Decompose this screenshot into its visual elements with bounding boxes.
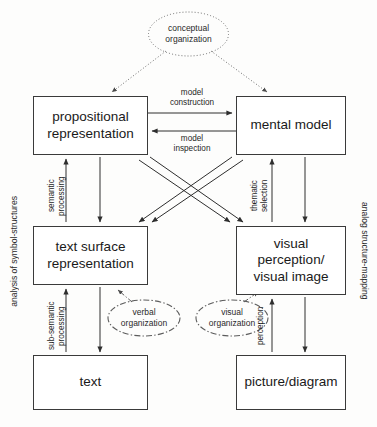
edge-label-model-construction: model construction bbox=[152, 88, 232, 109]
node-propositional-representation-label: propositional representation bbox=[47, 109, 133, 142]
node-text[interactable]: text bbox=[33, 355, 148, 410]
diagram-canvas: propositional representation mental mode… bbox=[0, 0, 377, 427]
verbal-organization-ellipse bbox=[108, 300, 180, 336]
side-label-analog-structure-mapping: analog structure-mapping bbox=[360, 202, 370, 299]
node-propositional-representation[interactable]: propositional representation bbox=[33, 96, 148, 155]
edge-label-thematic-selection: thematic selection bbox=[250, 168, 271, 224]
edge-propositional-to-visual-perception bbox=[150, 157, 243, 222]
node-visual-perception-visual-image-label: visual perception/ visual image bbox=[253, 236, 328, 285]
edge-verbal-organization-to-text-surface bbox=[118, 290, 132, 302]
node-text-label: text bbox=[80, 374, 102, 390]
edge-conceptual-to-mental-model bbox=[211, 51, 267, 92]
edge-conceptual-to-propositional bbox=[112, 51, 166, 92]
edge-label-semantic-processing: semantic processing bbox=[47, 168, 68, 224]
node-picture-diagram-label: picture/diagram bbox=[244, 374, 337, 390]
edge-label-model-inspection: model inspection bbox=[152, 134, 232, 155]
node-text-surface-representation-label: text surface representation bbox=[47, 239, 133, 272]
edge-label-sub-semantic-processing: sub-semantic processing bbox=[47, 298, 68, 354]
node-visual-perception-visual-image[interactable]: visual perception/ visual image bbox=[236, 226, 346, 295]
node-text-surface-representation[interactable]: text surface representation bbox=[33, 226, 148, 285]
edge-mental-model-to-text-surface bbox=[139, 157, 232, 222]
node-mental-model[interactable]: mental model bbox=[236, 96, 346, 155]
node-mental-model-label: mental model bbox=[250, 117, 331, 133]
side-label-analysis-of-symbol-structures: analysis of symbol-structures bbox=[9, 196, 19, 307]
conceptual-organization-ellipse bbox=[149, 12, 229, 56]
edge-label-perception: perception bbox=[256, 300, 266, 352]
node-picture-diagram[interactable]: picture/diagram bbox=[236, 355, 346, 410]
